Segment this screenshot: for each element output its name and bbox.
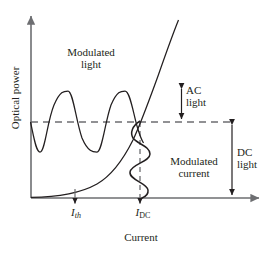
ith-subscript: th — [75, 211, 81, 220]
annotation-modulated-light-line1: Modulated — [67, 46, 115, 58]
figure-canvas: Optical power Modulated light Modulated … — [0, 0, 271, 254]
annotation-modulated-light-line2: light — [81, 58, 101, 70]
annotation-ac-light: AC light — [186, 84, 220, 109]
annotation-modulated-light: Modulated light — [48, 46, 134, 71]
x-axis-label: Current — [110, 231, 172, 243]
idc-subscript: DC — [139, 211, 150, 220]
annotation-modulated-current-line1: Modulated — [170, 155, 218, 167]
annotation-ac-light-line2: light — [186, 96, 206, 108]
y-axis-label: Optical power — [9, 62, 21, 134]
annotation-modulated-current: Modulated current — [163, 155, 225, 180]
annotation-dc-light-line1: DC — [237, 146, 252, 158]
annotation-ac-light-line1: AC — [186, 84, 201, 96]
annotation-dc-light: DC light — [237, 146, 271, 171]
x-tick-label-ith: Ith — [61, 206, 91, 221]
x-tick-label-idc: IDC — [126, 206, 160, 221]
annotation-modulated-current-line2: current — [178, 167, 209, 179]
annotation-dc-light-line2: light — [237, 158, 257, 170]
